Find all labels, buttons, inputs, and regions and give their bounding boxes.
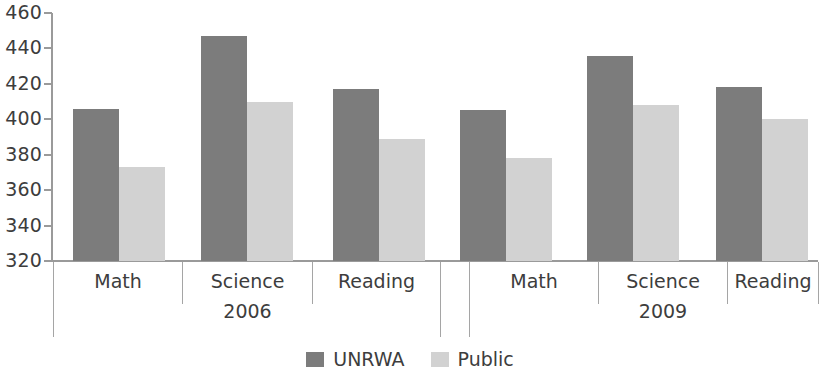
y-axis-tick-label: 420 [0, 74, 42, 93]
plot-area [53, 13, 818, 261]
legend-label: Public [458, 350, 514, 369]
y-axis-tick-label: 360 [0, 180, 42, 199]
bar-public-reading-2009 [762, 119, 808, 261]
bar-public-science-2006 [247, 102, 293, 261]
y-axis-tick-mark [44, 225, 52, 227]
legend-swatch-icon [431, 352, 449, 367]
category-separator [440, 262, 441, 337]
bar-unrwa-math-2009 [460, 110, 506, 261]
legend-label: UNRWA [333, 350, 404, 369]
bar-unrwa-math-2006 [73, 109, 119, 261]
legend-swatch-icon [306, 352, 324, 367]
y-axis-tick-mark [44, 12, 52, 14]
y-axis-tick-mark [44, 154, 52, 156]
y-axis-tick-mark [44, 118, 52, 120]
y-axis-tick-mark [44, 47, 52, 49]
category-label-g1c2: Science [183, 270, 312, 292]
chart-legend: UNRWA Public [0, 350, 820, 369]
legend-item-unrwa[interactable]: UNRWA [306, 350, 404, 369]
y-axis-tick-label: 460 [0, 3, 42, 22]
bar-public-reading-2006 [379, 139, 425, 261]
category-separator [818, 262, 819, 304]
category-label-g2c1: Math [470, 270, 598, 292]
bar-unrwa-reading-2006 [333, 89, 379, 261]
category-label-g2c3: Reading [728, 270, 818, 292]
bar-chart: 460440420400380360340320 MathScienceRead… [0, 0, 820, 379]
y-axis-tick-label: 440 [0, 38, 42, 57]
category-label-g1c1: Math [54, 270, 182, 292]
bar-unrwa-science-2009 [587, 56, 633, 261]
y-axis-tick-label: 340 [0, 216, 42, 235]
category-label-g2c2: Science [599, 270, 727, 292]
y-axis-tick-label: 380 [0, 145, 42, 164]
bar-unrwa-science-2006 [201, 36, 247, 261]
bar-public-math-2006 [119, 167, 165, 261]
y-axis-tick-mark [44, 189, 52, 191]
y-axis-tick-mark [44, 83, 52, 85]
bar-public-science-2009 [633, 105, 679, 261]
group-year-label-year2: 2009 [599, 300, 727, 322]
y-axis-tick-label: 400 [0, 109, 42, 128]
y-axis-tick-label: 320 [0, 251, 42, 270]
legend-item-public[interactable]: Public [431, 350, 514, 369]
category-label-g1c3: Reading [313, 270, 440, 292]
group-year-label-year1: 2006 [183, 300, 312, 322]
bar-unrwa-reading-2009 [716, 87, 762, 261]
bar-public-math-2009 [506, 158, 552, 261]
